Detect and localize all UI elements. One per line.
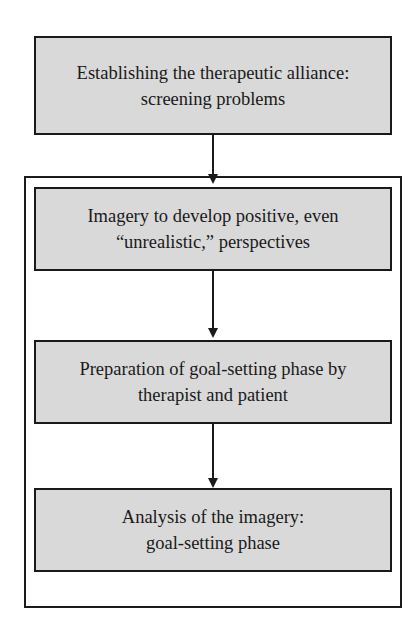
flow-step-goal-setting-preparation: Preparation of goal-setting phase by the… — [34, 340, 392, 424]
flow-step-imagery-analysis: Analysis of the imagery: goal-setting ph… — [34, 488, 392, 572]
step-text-line: “unrealistic,” perspectives — [87, 229, 338, 255]
step-text-line: therapist and patient — [79, 382, 346, 408]
step-text-line: Analysis of the imagery: — [122, 504, 304, 530]
step-text-line: Preparation of goal-setting phase by — [79, 356, 346, 382]
step-text-line: Establishing the therapeutic alliance: — [77, 60, 350, 86]
flow-step-establishing-alliance: Establishing the therapeutic alliance: s… — [34, 36, 392, 135]
step-text-line: screening problems — [77, 86, 350, 112]
step-text-line: Imagery to develop positive, even — [87, 203, 338, 229]
step-text-line: goal-setting phase — [122, 530, 304, 556]
flow-step-imagery-perspectives: Imagery to develop positive, even “unrea… — [34, 187, 392, 271]
